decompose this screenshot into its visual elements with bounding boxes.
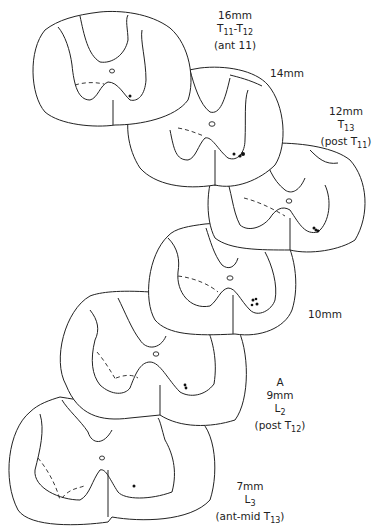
length-14mm: 14mm xyxy=(262,67,312,80)
segment-9mm: L2 xyxy=(245,402,315,419)
section-16mm xyxy=(33,11,191,126)
length-16mm: 16mm xyxy=(200,9,270,22)
label-7mm: 7mm L3 (ant-mid T13) xyxy=(205,480,295,527)
segment-16mm: T11-T12 xyxy=(200,22,270,39)
segment-12mm: T13 xyxy=(315,118,377,135)
length-9mm: 9mm xyxy=(245,389,315,402)
label-16mm: 16mm T11-T12 (ant 11) xyxy=(200,9,270,52)
marker-A: A xyxy=(245,376,315,389)
note-12mm: (post T11) xyxy=(315,135,377,152)
label-12mm: 12mm T13 (post T11) xyxy=(315,105,377,152)
length-7mm: 7mm xyxy=(205,480,295,493)
length-12mm: 12mm xyxy=(315,105,377,118)
label-10mm: 10mm xyxy=(300,308,350,321)
segment-7mm: L3 xyxy=(205,493,295,510)
label-14mm: 14mm xyxy=(262,67,312,80)
note-7mm: (ant-mid T13) xyxy=(205,510,295,527)
label-9mm: A 9mm L2 (post T12) xyxy=(245,376,315,436)
length-10mm: 10mm xyxy=(300,308,350,321)
spinal-cord-sections-diagram xyxy=(0,0,377,532)
note-9mm: (post T12) xyxy=(245,419,315,436)
note-16mm: (ant 11) xyxy=(200,39,270,52)
